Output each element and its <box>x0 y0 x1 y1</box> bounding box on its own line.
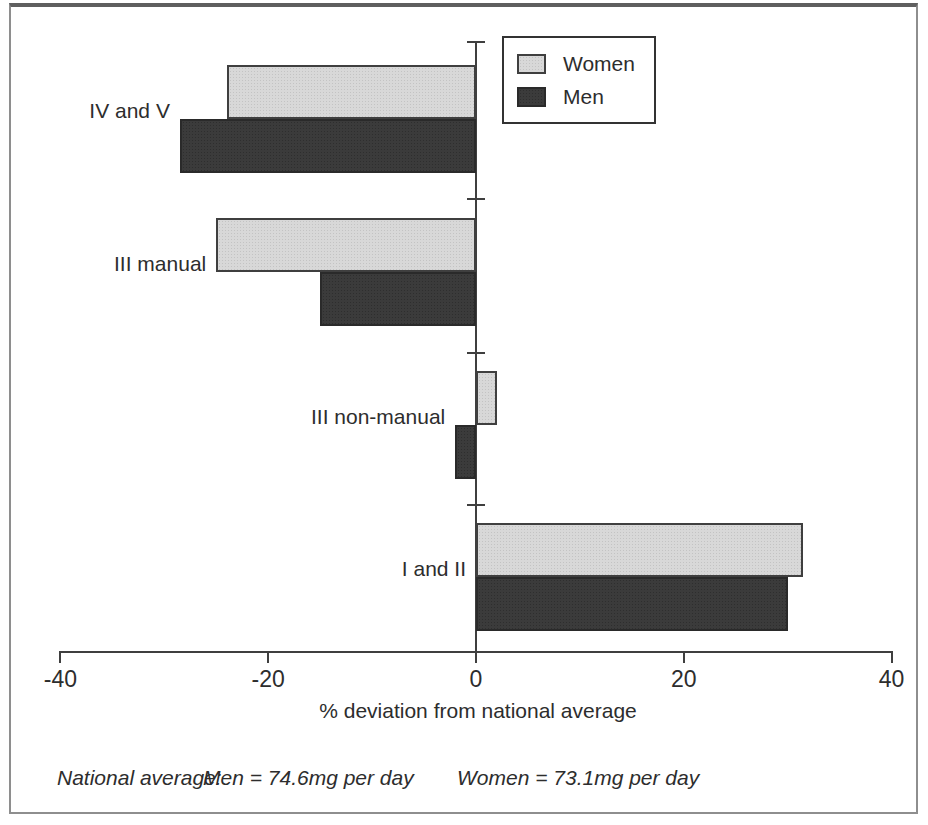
x-tick-label-20: 20 <box>644 666 724 692</box>
legend-swatch-women <box>517 54 546 74</box>
category-tick-3 <box>467 504 485 506</box>
bar-men-iii-non-manual <box>455 425 476 479</box>
x-tick--20 <box>267 651 269 663</box>
legend-label-men: Men <box>563 86 604 108</box>
legend-swatch-men <box>517 87 546 107</box>
legend: Women Men <box>502 36 656 124</box>
national-average-women: Women = 73.1mg per day <box>457 764 699 792</box>
bar-men-iii-manual <box>320 272 476 326</box>
bar-men-i-and-ii <box>476 577 788 631</box>
x-axis-title: % deviation from national average <box>28 699 928 723</box>
legend-label-women: Women <box>563 53 635 75</box>
bar-women-iii-manual <box>216 218 476 272</box>
bar-women-iii-non-manual <box>476 371 497 425</box>
x-tick-label--20: -20 <box>228 666 308 692</box>
bar-women-i-and-ii <box>476 523 803 577</box>
category-tick-0 <box>467 41 485 43</box>
x-tick-0 <box>475 651 477 663</box>
bar-men-iv-and-v <box>180 119 476 173</box>
x-tick-label-40: 40 <box>852 666 928 692</box>
category-label-iv-and-v: IV and V <box>89 98 170 124</box>
x-tick-label-0: 0 <box>436 666 516 692</box>
legend-item-men: Men <box>517 86 654 108</box>
category-label-iii-manual: III manual <box>114 251 206 277</box>
category-tick-1 <box>467 198 485 200</box>
x-tick--40 <box>59 651 61 663</box>
national-average-label: National average: <box>57 764 222 792</box>
legend-item-women: Women <box>517 53 654 75</box>
national-average-men: Men = 74.6mg per day <box>203 764 414 792</box>
category-tick-2 <box>467 352 485 354</box>
x-tick-40 <box>891 651 893 663</box>
footnote: National average: Men = 74.6mg per day W… <box>0 764 928 792</box>
bar-women-iv-and-v <box>227 65 476 119</box>
chart-figure: -40-2002040IV and VIII manualIII non-man… <box>0 0 928 825</box>
x-tick-label--40: -40 <box>20 666 100 692</box>
category-label-iii-non-manual: III non-manual <box>311 404 445 430</box>
x-tick-20 <box>683 651 685 663</box>
category-label-i-and-ii: I and II <box>402 556 466 582</box>
